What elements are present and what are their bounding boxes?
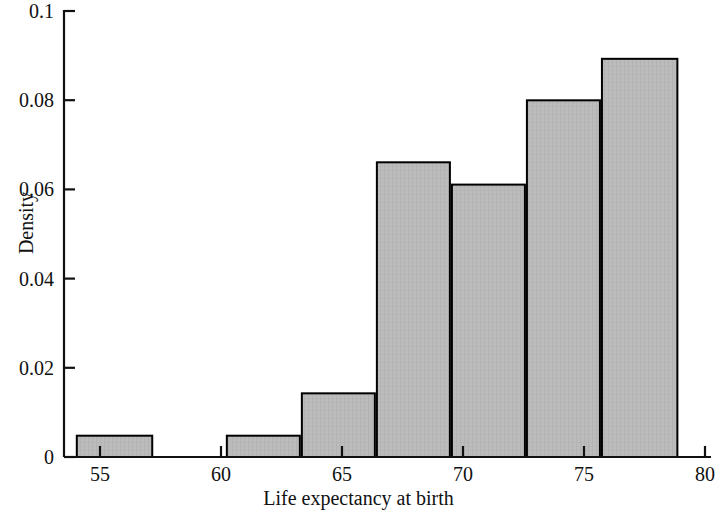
y-axis-tick-label: 0.08 [0,90,54,110]
y-axis-tick-label: 0 [0,447,54,467]
y-axis-tick-label: 0.02 [0,358,54,378]
bars-group [77,59,678,457]
histogram-bar [77,436,152,457]
x-axis-tick-label: 80 [665,464,717,484]
histogram-bar [527,100,600,457]
histogram-figure: 00.020.040.060.080.1 556065707580 Life e… [0,0,717,515]
y-axis-tick-label: 0.1 [0,1,54,21]
x-axis-tick-label: 60 [181,464,261,484]
x-axis-tick-label: 65 [302,464,382,484]
x-axis-tick-label: 55 [60,464,140,484]
histogram-bar [227,436,300,457]
histogram-bar [377,162,450,457]
y-axis-title: Density [15,153,37,293]
histogram-bar [302,393,375,457]
histogram-bar [602,59,677,457]
y-axis-ticks [64,11,75,457]
histogram-bar [452,185,525,457]
x-axis-title: Life expectancy at birth [0,487,717,509]
x-axis-tick-label: 70 [423,464,503,484]
x-axis-tick-label: 75 [544,464,624,484]
plot-canvas [0,0,717,515]
